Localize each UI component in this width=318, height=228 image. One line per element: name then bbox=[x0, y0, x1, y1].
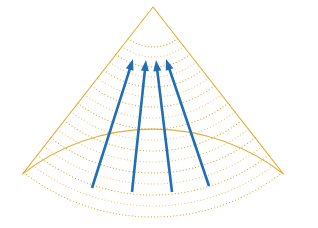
wavefront-dot bbox=[132, 84, 133, 85]
wavefront-dot bbox=[199, 107, 200, 108]
wavefront-dot bbox=[237, 187, 238, 188]
wavefront-dot bbox=[53, 191, 54, 192]
wavefront-dot bbox=[261, 186, 262, 187]
wavefront-dot bbox=[165, 205, 166, 206]
wavefront-dot bbox=[244, 195, 245, 196]
wavefront-dot bbox=[113, 179, 114, 180]
wavefront-dot bbox=[130, 115, 131, 116]
wavefront-dot bbox=[173, 171, 174, 172]
wavefront-dot bbox=[200, 94, 201, 95]
wavefront-dot bbox=[183, 136, 184, 137]
wavefront-dot bbox=[208, 139, 209, 140]
wavefront-dot bbox=[91, 207, 92, 208]
wavefront-dot bbox=[219, 158, 220, 159]
wavefront-dot bbox=[167, 139, 168, 140]
wavefront-dot bbox=[148, 216, 149, 217]
wavefront-dot bbox=[62, 132, 63, 133]
wavefront-dot bbox=[206, 198, 207, 199]
wavefront-dot bbox=[136, 116, 137, 117]
wavefront-dot bbox=[127, 148, 128, 149]
wavefront-dot bbox=[123, 81, 124, 82]
wavefront-dot bbox=[160, 56, 161, 57]
wavefront-dot bbox=[119, 124, 120, 125]
wavefront-dot bbox=[175, 204, 176, 205]
wavefront-dot bbox=[218, 122, 219, 123]
wavefront-dot bbox=[225, 104, 226, 105]
wavefront-dot bbox=[124, 114, 125, 115]
wavefront-dot bbox=[179, 125, 180, 126]
wavefront-dot bbox=[156, 150, 157, 151]
wavefront-dot bbox=[98, 128, 99, 129]
wavefront-dot bbox=[209, 89, 210, 90]
wavefront-dot bbox=[156, 194, 157, 195]
wavefront-dot bbox=[122, 102, 123, 103]
wavefront-dot bbox=[151, 106, 152, 107]
wavefront-dot bbox=[129, 126, 130, 127]
wavefront-dot bbox=[133, 204, 134, 205]
wavefront-dot bbox=[179, 71, 180, 72]
wavefront-dot bbox=[157, 172, 158, 173]
wavefront-dot bbox=[185, 68, 186, 69]
wavefront-dot bbox=[151, 56, 152, 57]
wavefront-dot bbox=[157, 183, 158, 184]
wavefront-dot bbox=[109, 144, 110, 145]
wavefront-dot bbox=[212, 113, 213, 114]
wavefront-dot bbox=[65, 134, 66, 135]
wavefront-dot bbox=[55, 141, 56, 142]
wavefront-dot bbox=[146, 150, 147, 151]
wavefront-dot bbox=[207, 163, 208, 164]
wavefront-dot bbox=[122, 214, 123, 215]
wavefront-dot bbox=[151, 46, 152, 47]
wavefront-dot bbox=[214, 111, 215, 112]
wavefront-dot bbox=[141, 172, 142, 173]
wavefront-dot bbox=[251, 179, 252, 180]
wavefront-dot bbox=[234, 188, 235, 189]
wavefront-dot bbox=[149, 194, 150, 195]
wavefront-dot bbox=[140, 205, 141, 206]
wavefront-dot bbox=[57, 181, 58, 182]
wavefront-dot bbox=[194, 86, 195, 87]
wavefront-dot bbox=[74, 189, 75, 190]
wavefront-dot bbox=[210, 126, 211, 127]
wavefront-dot bbox=[180, 215, 181, 216]
wavefront-dot bbox=[93, 87, 94, 88]
wavefront-dot bbox=[259, 174, 260, 175]
wavefront-dot bbox=[221, 146, 222, 147]
wavefront-dot bbox=[229, 115, 230, 116]
wavefront-dot bbox=[235, 138, 236, 139]
wavefront-dot bbox=[69, 150, 70, 151]
wavefront-dot bbox=[198, 177, 199, 178]
wavefront-dot bbox=[74, 153, 75, 154]
wavefront-dot bbox=[144, 216, 145, 217]
wavefront-dot bbox=[212, 185, 213, 186]
wavefront-dot bbox=[126, 125, 127, 126]
wavefront-dot bbox=[235, 199, 236, 200]
wavefront-dot bbox=[159, 205, 160, 206]
wavefront-dot bbox=[74, 127, 75, 128]
wavefront-dot bbox=[202, 211, 203, 212]
wavefront-dot bbox=[200, 200, 201, 201]
wavefront-dot bbox=[244, 170, 245, 171]
wavefront-dot bbox=[154, 216, 155, 217]
wavefront-dot bbox=[209, 151, 210, 152]
wavefront-dot bbox=[112, 63, 113, 64]
wavefront-dot bbox=[57, 155, 58, 156]
wavefront-dot bbox=[108, 200, 109, 201]
wavefront-dot bbox=[220, 170, 221, 171]
wavefront-dot bbox=[130, 204, 131, 205]
wavefront-dot bbox=[35, 167, 36, 168]
wavefront-dot bbox=[97, 209, 98, 210]
wavefront-dot bbox=[95, 126, 96, 127]
wavefront-dot bbox=[191, 76, 192, 77]
wavefront-dot bbox=[113, 133, 114, 134]
wavefront-dot bbox=[186, 101, 187, 102]
wavefront-dot bbox=[116, 168, 117, 169]
wavefront-dot bbox=[130, 149, 131, 150]
wavefront-dot bbox=[193, 110, 194, 111]
wavefront-dot bbox=[151, 86, 152, 87]
wavefront-dot bbox=[128, 182, 129, 183]
wavefront-dot bbox=[214, 172, 215, 173]
wavefront-dot bbox=[135, 105, 136, 106]
wavefront-dot bbox=[152, 194, 153, 195]
wavefront-dot bbox=[181, 159, 182, 160]
